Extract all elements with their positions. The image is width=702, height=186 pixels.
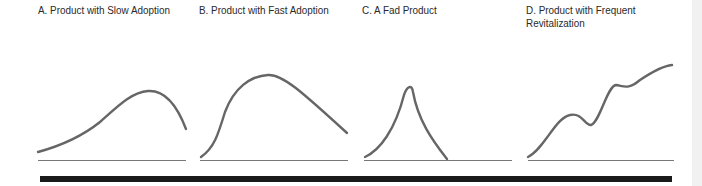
curves-canvas: [0, 0, 702, 186]
page-edge: [692, 0, 702, 186]
curve-b: [201, 75, 347, 157]
curve-d: [528, 65, 672, 157]
curve-a: [38, 91, 186, 152]
curve-c: [365, 87, 447, 159]
bottom-rule-bar: [40, 176, 672, 182]
